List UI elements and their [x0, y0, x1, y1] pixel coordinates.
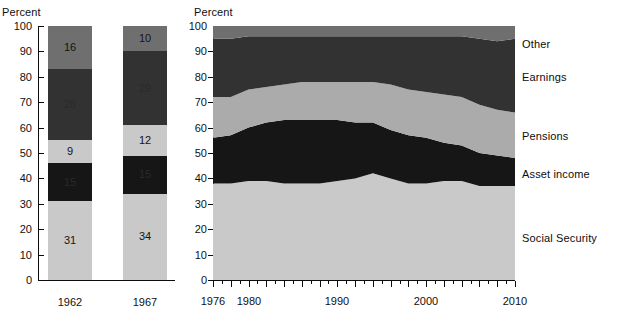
right-panel-x-tickmark [302, 281, 303, 287]
figure-root: Percent 1009080706050403020100 311592816… [0, 0, 619, 310]
right-panel-x-tickmark [391, 281, 392, 287]
legend-label: Social Security [522, 232, 597, 244]
right-panel-x-tickmark [249, 281, 250, 287]
right-panel-x-tickmark [408, 281, 409, 287]
right-panel-x-tickmark [400, 281, 401, 284]
right-panel-x-tickmark [284, 281, 285, 287]
right-panel-x-tickmark [364, 281, 365, 284]
right-panel-x-tickmark [328, 281, 329, 284]
right-panel-x-label: 1980 [227, 295, 271, 307]
right-panel-x-tickmark [479, 281, 480, 287]
right-panel-x-tickmark [506, 281, 507, 284]
right-panel-x-tickmark [337, 281, 338, 287]
right-panel-x-label: 2010 [493, 295, 537, 307]
right-panel-x-tickmark [240, 281, 241, 284]
right-panel-x-tickmark [355, 281, 356, 287]
legend-label: Pensions [522, 130, 568, 142]
right-panel-x-tickmark [417, 281, 418, 284]
right-panel-x-tickmark [293, 281, 294, 284]
right-panel-x-tickmark [320, 281, 321, 287]
right-panel-x-tickmark [213, 281, 214, 287]
legend-label: Earnings [522, 71, 567, 83]
right-panel-x-tickmark [311, 281, 312, 284]
area-series [213, 173, 515, 280]
right-panel-x-tickmark [275, 281, 276, 284]
right-panel-x-tickmark [266, 281, 267, 287]
right-panel-x-tickmark [231, 281, 232, 287]
right-panel-x-tickmark [453, 281, 454, 284]
right-panel-x-tickmark [471, 281, 472, 284]
right-panel-x-tickmark [462, 281, 463, 287]
right-panel-x-tickmark [373, 281, 374, 287]
legend-label: Other [522, 38, 550, 50]
right-panel-x-tickmark [497, 281, 498, 287]
right-panel-x-tickmark [346, 281, 347, 284]
right-panel-x-tickmark [435, 281, 436, 284]
right-panel-x-tickmark [222, 281, 223, 284]
right-panel-x-label: 2000 [404, 295, 448, 307]
right-panel-x-tickmark [426, 281, 427, 287]
right-panel-x-tickmark [257, 281, 258, 284]
right-panel-x-tickmark [444, 281, 445, 287]
legend-label: Asset income [522, 168, 590, 180]
right-panel-x-tickmark [488, 281, 489, 284]
right-panel-x-label: 1990 [315, 295, 359, 307]
right-panel-x-tickmark [382, 281, 383, 284]
right-panel-x-tickmark [515, 281, 516, 287]
